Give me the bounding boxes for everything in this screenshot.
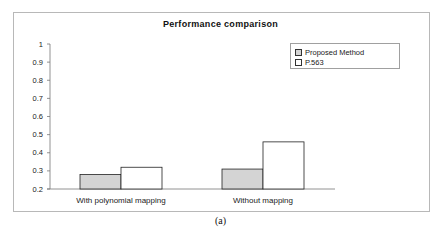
bar-proposed-0 — [80, 175, 121, 190]
legend-swatch-p563-icon — [295, 59, 302, 66]
bar-chart-plot: 0.20.30.40.50.60.70.80.91With polynomial… — [0, 0, 441, 243]
y-tick-label: 0.5 — [33, 130, 43, 139]
figure-caption: (a) — [0, 215, 441, 226]
y-tick-label: 0.4 — [33, 148, 43, 157]
y-tick-label: 0.7 — [33, 94, 43, 103]
legend: Proposed Method P.563 — [290, 43, 400, 69]
y-tick-label: 0.6 — [33, 112, 43, 121]
y-tick-label: 0.9 — [33, 58, 43, 67]
y-tick-label: 0.8 — [33, 76, 43, 85]
legend-label: Proposed Method — [305, 48, 364, 57]
legend-swatch-proposed-icon — [295, 49, 302, 56]
y-tick-label: 0.2 — [33, 185, 43, 194]
x-category-label: Without mapping — [233, 196, 293, 205]
bar-p563-1 — [263, 142, 304, 189]
x-category-label: With polynomial mapping — [76, 196, 165, 205]
legend-item-proposed-method: Proposed Method — [295, 47, 364, 57]
legend-item-p563: P.563 — [295, 57, 324, 67]
bar-p563-0 — [121, 167, 162, 189]
y-tick-label: 1 — [39, 40, 43, 49]
y-tick-label: 0.3 — [33, 166, 43, 175]
legend-label: P.563 — [305, 58, 324, 67]
bar-proposed-1 — [222, 169, 263, 189]
